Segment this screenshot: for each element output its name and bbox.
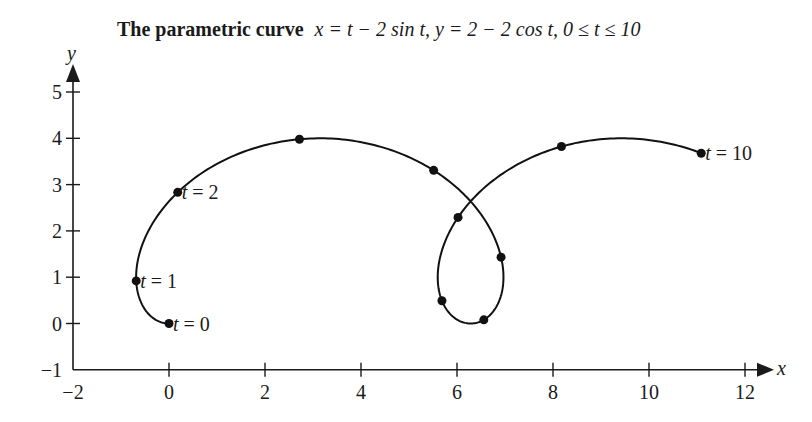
y-tick-label: −1 — [41, 359, 62, 381]
x-tick-label: 4 — [356, 381, 366, 403]
chart-title: The parametric curve x = t − 2 sin t, y … — [117, 18, 641, 41]
y-tick-label: 2 — [52, 220, 62, 242]
y-axis-arrow-icon — [66, 64, 80, 82]
x-tick-label: 12 — [735, 381, 755, 403]
data-point-t8 — [454, 213, 463, 222]
y-tick-label: 1 — [52, 266, 62, 288]
x-tick-label: 8 — [548, 381, 558, 403]
x-axis-label: x — [776, 357, 786, 379]
y-tick-label: 0 — [52, 313, 62, 335]
data-point-t9 — [557, 142, 566, 151]
data-point-t7 — [437, 296, 446, 305]
chart-title-equation: x = t − 2 sin t, y = 2 − 2 cos t, 0 ≤ t … — [314, 18, 641, 41]
point-label-t2: t = 2 — [182, 181, 219, 203]
y-tick-label: 5 — [52, 81, 62, 103]
y-tick-label: 3 — [52, 174, 62, 196]
data-point-t4 — [429, 166, 438, 175]
x-tick-label: −2 — [62, 381, 83, 403]
points-layer: t = 0t = 1t = 2t = 10 — [132, 135, 752, 335]
y-axis-label: y — [65, 42, 76, 65]
parametric-curve-chart: The parametric curve x = t − 2 sin t, y … — [0, 0, 812, 422]
data-point-t6 — [479, 315, 488, 324]
x-axis-arrow-icon — [757, 363, 774, 377]
curve-layer — [136, 138, 701, 323]
chart-title-bold: The parametric curve — [117, 18, 304, 41]
parametric-curve-path — [136, 138, 701, 323]
data-point-t3 — [295, 135, 304, 144]
point-label-t10: t = 10 — [705, 142, 752, 164]
point-label-t0: t = 0 — [173, 313, 210, 335]
x-tick-label: 10 — [639, 381, 659, 403]
data-point-t5 — [497, 253, 506, 262]
x-tick-label: 6 — [452, 381, 462, 403]
x-tick-label: 0 — [164, 381, 174, 403]
x-tick-label: 2 — [260, 381, 270, 403]
y-tick-label: 4 — [52, 127, 62, 149]
point-label-t1: t = 1 — [140, 270, 177, 292]
